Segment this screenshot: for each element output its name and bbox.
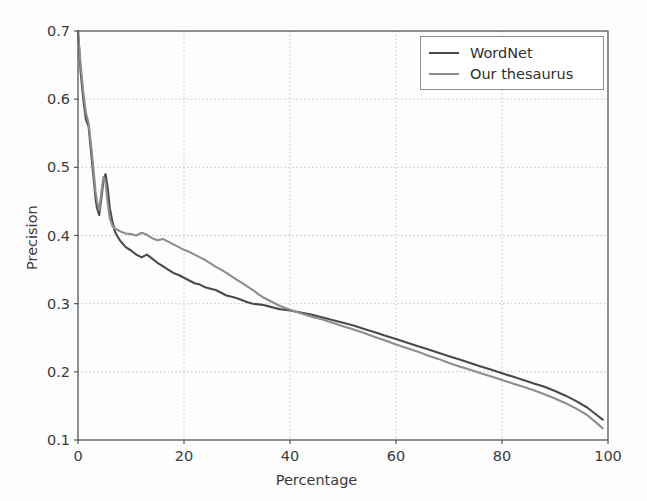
legend-item-wordnet: WordNet <box>429 42 593 63</box>
legend-item-our-thesaurus: Our thesaurus <box>429 63 593 84</box>
x-tick-label: 80 <box>493 448 511 464</box>
y-tick-label: 0.3 <box>47 296 70 312</box>
legend-label-our-thesaurus: Our thesaurus <box>470 66 573 82</box>
y-tick-label: 0.5 <box>47 159 70 175</box>
x-tick-label: 40 <box>281 448 299 464</box>
x-tick-label: 0 <box>73 448 82 464</box>
y-tick-label: 0.7 <box>47 23 70 39</box>
legend-swatch-wordnet <box>429 52 459 54</box>
axes-frame <box>78 31 608 440</box>
x-tick-label: 20 <box>175 448 193 464</box>
legend-label-wordnet: WordNet <box>470 45 533 61</box>
y-tick-label: 0.6 <box>47 91 70 107</box>
chart-legend: WordNet Our thesaurus <box>420 36 604 90</box>
y-tick-label: 0.1 <box>47 432 70 448</box>
x-tick-label: 100 <box>594 448 622 464</box>
data-series <box>78 31 603 428</box>
legend-swatch-our-thesaurus <box>429 73 459 75</box>
y-tick-label: 0.2 <box>47 364 70 380</box>
x-axis-title: Percentage <box>0 472 647 488</box>
series-line-our-thesaurus <box>78 31 603 428</box>
y-axis-title: Precision <box>24 205 40 270</box>
y-tick-label: 0.4 <box>47 228 70 244</box>
grid-lines <box>78 31 608 440</box>
figure-canvas: 0.10.20.30.40.50.60.7 020406080100 Preci… <box>0 0 647 501</box>
x-tick-label: 60 <box>387 448 405 464</box>
